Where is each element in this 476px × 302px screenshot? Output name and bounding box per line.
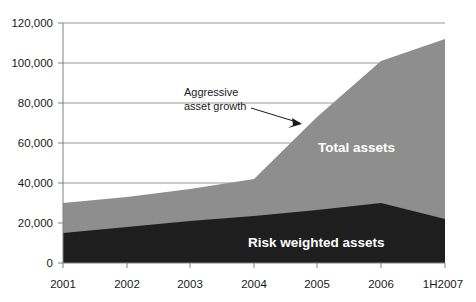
y-tick-label-40000: 40,000 bbox=[18, 177, 53, 189]
annotation-line-2: asset growth bbox=[184, 100, 246, 112]
asset-growth-area-chart: 120,000 100,000 80,000 60,000 40,000 20,… bbox=[0, 0, 476, 302]
y-tick-label-60000: 60,000 bbox=[18, 137, 53, 149]
x-axis-tick-labels: 2001 2002 2003 2004 2005 2006 1H2007 bbox=[50, 278, 463, 290]
x-tick-label-1h2007: 1H2007 bbox=[423, 278, 463, 290]
y-tick-marks bbox=[58, 23, 63, 263]
x-tick-label-2006: 2006 bbox=[368, 278, 394, 290]
y-tick-label-20000: 20,000 bbox=[18, 217, 53, 229]
x-tick-marks bbox=[63, 263, 445, 268]
y-tick-label-120000: 120,000 bbox=[11, 17, 53, 29]
y-tick-label-100000: 100,000 bbox=[11, 57, 53, 69]
y-tick-label-0: 0 bbox=[47, 257, 53, 269]
x-tick-label-2002: 2002 bbox=[114, 278, 140, 290]
y-axis-tick-labels: 120,000 100,000 80,000 60,000 40,000 20,… bbox=[11, 17, 53, 269]
y-tick-label-80000: 80,000 bbox=[18, 97, 53, 109]
x-tick-label-2004: 2004 bbox=[241, 278, 267, 290]
x-tick-label-2003: 2003 bbox=[177, 278, 203, 290]
chart-container: 120,000 100,000 80,000 60,000 40,000 20,… bbox=[0, 0, 476, 302]
annotation-line-1: Aggressive bbox=[184, 86, 238, 98]
x-tick-label-2001: 2001 bbox=[50, 278, 76, 290]
x-tick-label-2005: 2005 bbox=[304, 278, 330, 290]
series-label-risk-weighted-assets: Risk weighted assets bbox=[248, 235, 385, 250]
series-label-total-assets: Total assets bbox=[318, 140, 395, 155]
